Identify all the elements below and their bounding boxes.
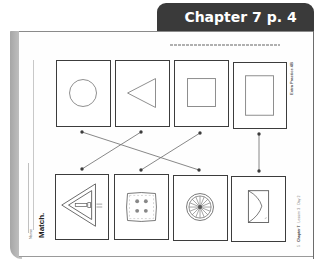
footer-info: 5 Chapter 7 Lesson 3 Day 2 [297,195,301,247]
chapter-page-tab: Chapter 7 p. 4 [157,3,314,32]
directions-text: Directions: Match each shape to the obje… [170,44,280,46]
instruction-title: Match. [37,213,46,238]
napkin-icon [115,175,168,239]
object-card-wheel[interactable] [173,175,228,241]
yield-sign-icon [56,175,108,239]
shape-card-rectangle[interactable] [233,62,287,129]
footer-page-number: 5 [297,245,301,247]
shape-card-square[interactable] [174,60,229,127]
side-label: Extra Practice 4B [289,62,294,95]
shape-card-triangle[interactable] [115,60,170,127]
footer-lesson: Lesson 3 [297,208,301,223]
circle-icon [57,61,110,126]
wheel-icon [174,176,227,240]
page-border [313,31,314,259]
rectangle-icon [234,63,286,128]
name-label: Name [29,229,33,239]
object-card-yield-sign[interactable] [55,174,109,240]
envelope-icon [232,177,285,241]
shape-card-circle[interactable] [56,60,111,127]
footer-chapter: Chapter 7 [297,225,301,242]
name-write-line [28,163,29,233]
margin-line [33,60,34,230]
footer-day: Day 2 [297,195,301,204]
object-card-envelope[interactable] [231,176,286,242]
object-card-napkin[interactable] [114,174,169,240]
triangle-icon [116,61,169,126]
square-icon [175,61,228,126]
